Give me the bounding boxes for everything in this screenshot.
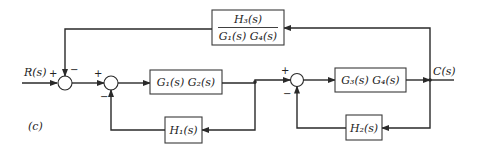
block-h3-denominator: G₁(s) G₄(s) bbox=[219, 30, 277, 43]
sj2-minus-sign: − bbox=[100, 91, 108, 102]
h1-feedback-out-line bbox=[111, 90, 165, 130]
block-g3g4: G₃(s) G₄(s) bbox=[335, 68, 406, 92]
summing-junction-2 bbox=[104, 76, 118, 90]
h2-feedback-out-line bbox=[297, 87, 346, 129]
block-g3g4-label: G₃(s) G₄(s) bbox=[341, 74, 399, 87]
block-diagram: R(s) + − + − G₁(s) G₂(s) H₁(s) + − G₃(s)… bbox=[0, 0, 478, 158]
sj1-plus-sign: + bbox=[49, 68, 57, 79]
block-h2-label: H₂(s) bbox=[349, 122, 378, 135]
block-h3-numerator: H₃(s) bbox=[233, 13, 262, 26]
output-label: C(s) bbox=[433, 65, 456, 78]
sj3-minus-sign: − bbox=[283, 88, 291, 99]
h3-feedback-out-line bbox=[65, 29, 212, 76]
sj1-minus-sign: − bbox=[70, 64, 78, 75]
sj3-plus-sign: + bbox=[281, 65, 289, 76]
block-g1g2-label: G₁(s) G₂(s) bbox=[157, 76, 215, 89]
block-h3: H₃(s) G₁(s) G₄(s) bbox=[212, 10, 284, 45]
input-label: R(s) bbox=[23, 66, 47, 79]
block-h1: H₁(s) bbox=[165, 117, 202, 143]
sj2-plus-sign: + bbox=[94, 68, 102, 79]
block-g1g2: G₁(s) G₂(s) bbox=[150, 70, 222, 94]
block-h1-label: H₁(s) bbox=[168, 124, 197, 137]
figure-caption: (c) bbox=[28, 120, 43, 133]
summing-junction-1 bbox=[58, 76, 72, 90]
summing-junction-3 bbox=[291, 74, 304, 87]
block-h2: H₂(s) bbox=[346, 115, 382, 140]
